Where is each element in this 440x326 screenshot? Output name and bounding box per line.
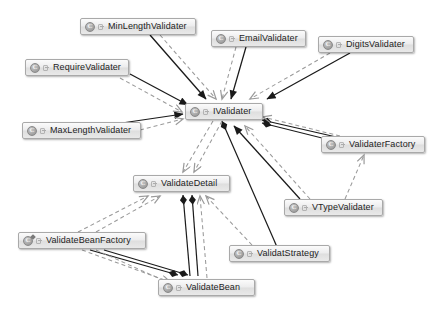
edge-email-ivalidater-inheritance bbox=[231, 47, 246, 99]
class-icon bbox=[27, 126, 37, 136]
class-node-label: VTypeValidater bbox=[312, 203, 374, 212]
package-glyph-icon bbox=[203, 108, 210, 116]
class-icon bbox=[163, 283, 173, 293]
class-node-label: ValidateDetail bbox=[161, 179, 217, 188]
package-glyph-icon bbox=[40, 127, 47, 135]
package-glyph-icon bbox=[247, 250, 254, 258]
edge-bean-detail-dependency bbox=[200, 196, 207, 278]
package-glyph-icon bbox=[151, 180, 158, 188]
class-node-label: DigitsValidater bbox=[346, 40, 405, 49]
package-glyph-icon bbox=[336, 41, 343, 49]
class-icon bbox=[138, 179, 148, 189]
package-glyph-icon bbox=[36, 237, 43, 245]
class-icon bbox=[326, 140, 336, 150]
edge-beanfactory2-detail-dependency bbox=[96, 196, 160, 232]
uml-class-diagram: MinLengthValidater EmailValidater Digits… bbox=[0, 0, 440, 326]
edge-strategy-detail-dependency bbox=[206, 196, 252, 245]
edge-strategy-ivalidater-composition bbox=[222, 121, 277, 247]
class-node-validatebeanfactory[interactable]: ValidateBeanFactory bbox=[18, 232, 146, 249]
edge-bean2-detail-composition bbox=[192, 195, 198, 276]
class-node-label: IValidater bbox=[213, 107, 251, 116]
package-glyph-icon bbox=[339, 141, 346, 149]
edge-require-ivalidater-inheritance bbox=[130, 74, 188, 105]
class-node-maxlengthvalidater[interactable]: MaxLengthValidater bbox=[22, 122, 141, 139]
class-icon bbox=[323, 40, 333, 50]
edge-vtype-ivalidater-dependency bbox=[245, 126, 310, 199]
package-glyph-icon bbox=[98, 23, 105, 31]
class-node-label: MaxLengthValidater bbox=[50, 126, 131, 135]
class-node-label: ValidateBean bbox=[186, 283, 240, 292]
class-node-digitsvalidater[interactable]: DigitsValidater bbox=[318, 36, 414, 53]
edge-bean-detail-composition bbox=[183, 195, 190, 276]
class-node-validaterfactory[interactable]: ValidaterFactory bbox=[321, 136, 425, 153]
edge-vtype-ivalidater-inheritance bbox=[234, 126, 300, 199]
edge-minlength-ivalidater-dependency bbox=[160, 35, 216, 99]
class-icon bbox=[234, 249, 244, 259]
class-node-requirevalidater[interactable]: RequireValidater bbox=[25, 59, 129, 76]
class-node-validatebean[interactable]: ValidateBean bbox=[158, 279, 255, 296]
edge-beanfactory-detail-dependency bbox=[78, 196, 148, 232]
class-node-label: ValidateBeanFactory bbox=[46, 236, 131, 245]
class-node-label: EmailValidater bbox=[239, 34, 298, 43]
class-node-label: MinLengthValidater bbox=[108, 22, 187, 31]
class-icon-decorated bbox=[23, 236, 33, 246]
class-node-validatedetail[interactable]: ValidateDetail bbox=[133, 175, 230, 192]
class-node-vtypevalidater[interactable]: VTypeValidater bbox=[284, 199, 383, 216]
edge-digits-ivalidater-dependency bbox=[250, 53, 330, 99]
class-node-label: ValidatStrategy bbox=[257, 249, 319, 258]
package-glyph-icon bbox=[302, 204, 309, 212]
class-node-label: ValidaterFactory bbox=[349, 140, 415, 149]
class-icon bbox=[289, 203, 299, 213]
edge-maxlength-ivalidater-dependency bbox=[140, 119, 183, 130]
package-glyph-icon bbox=[176, 284, 183, 292]
class-node-emailvalidater[interactable]: EmailValidater bbox=[211, 30, 306, 47]
class-icon bbox=[30, 63, 40, 73]
class-icon bbox=[85, 22, 95, 32]
class-node-ivalidater[interactable]: IValidater bbox=[185, 103, 263, 120]
class-icon bbox=[216, 34, 226, 44]
edge-digits-ivalidater-inheritance bbox=[267, 53, 350, 99]
class-node-validatstrategy[interactable]: ValidatStrategy bbox=[229, 245, 330, 262]
edge-vtype-factory-dependency bbox=[345, 155, 364, 199]
class-icon bbox=[190, 107, 200, 117]
edge-require-ivalidater-dependency bbox=[120, 78, 182, 112]
package-glyph-icon bbox=[43, 64, 50, 72]
class-node-minlengthvalidater[interactable]: MinLengthValidater bbox=[80, 18, 196, 35]
package-glyph-icon bbox=[229, 35, 236, 43]
class-node-label: RequireValidater bbox=[53, 63, 121, 72]
